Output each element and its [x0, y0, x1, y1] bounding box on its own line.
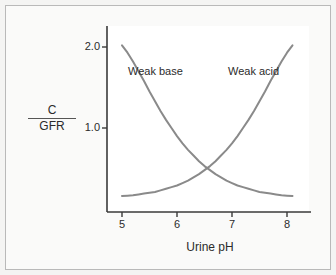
y-tick-label-1: 1.0 [60, 122, 100, 133]
x-axis-title: Urine pH [140, 241, 280, 254]
y-tick-label-2: 2.0 [60, 41, 100, 52]
x-tick-label-5: 5 [110, 219, 134, 230]
curve-label-weak-base: Weak base [128, 65, 183, 77]
chart-plot-svg [0, 0, 336, 275]
x-tick-label-7: 7 [220, 219, 244, 230]
y-axis-title-numerator: C [26, 104, 78, 118]
curve-label-weak-acid: Weak acid [228, 65, 279, 77]
x-tick-label-8: 8 [275, 219, 299, 230]
chart-figure: C GFR 2.0 1.0 5 6 7 8 Urine pH Weak base… [0, 0, 336, 275]
x-tick-label-6: 6 [165, 219, 189, 230]
